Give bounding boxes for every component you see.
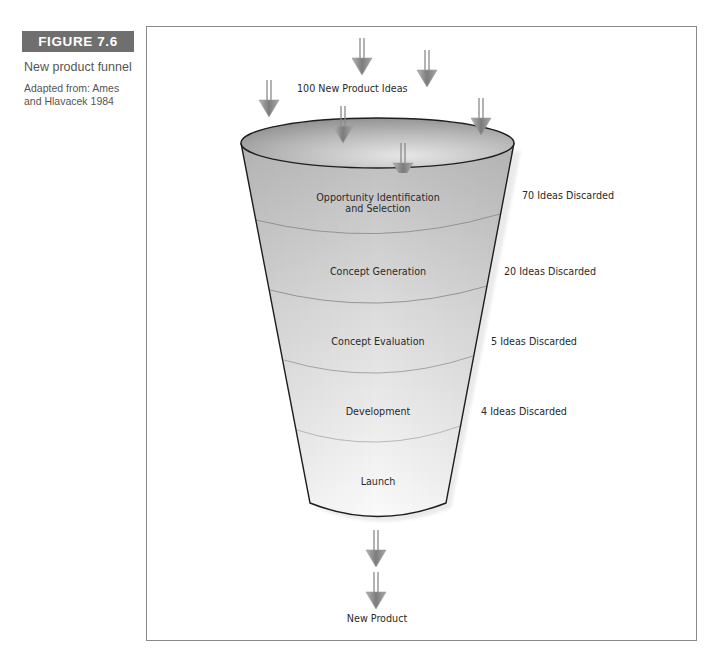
idea-arrow-icon xyxy=(417,50,437,87)
output-arrow-icon xyxy=(366,572,386,609)
stage-label-1: Opportunity Identification and Selection xyxy=(316,192,440,214)
output-label: New Product xyxy=(347,613,407,624)
output-arrow-icon xyxy=(366,530,386,567)
idea-arrow-icon xyxy=(259,80,279,117)
discarded-label-1: 70 Ideas Discarded xyxy=(522,190,614,201)
stage-label-2: Concept Generation xyxy=(330,266,426,277)
discarded-label-4: 4 Ideas Discarded xyxy=(481,406,567,417)
funnel-opening xyxy=(241,118,514,168)
discarded-label-2: 20 Ideas Discarded xyxy=(504,266,596,277)
discarded-label-3: 5 Ideas Discarded xyxy=(491,336,577,347)
stage-label-3: Concept Evaluation xyxy=(331,336,424,347)
stage-label-4: Development xyxy=(346,406,411,417)
input-label: 100 New Product Ideas xyxy=(297,83,408,94)
funnel-diagram xyxy=(0,0,726,658)
stage-label-5: Launch xyxy=(361,476,396,487)
idea-arrow-icon xyxy=(352,38,372,75)
